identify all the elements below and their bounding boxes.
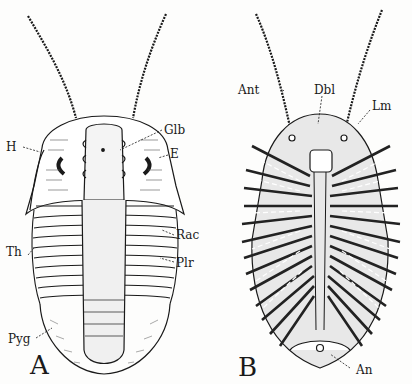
panel-letter-b: B xyxy=(238,354,257,380)
illustration xyxy=(0,0,412,384)
label-an: An xyxy=(356,364,372,376)
trilobite-figure: H Glb E Th Rac Plr Pyg A Ant Dbl Lm An B xyxy=(0,0,412,384)
label-th: Th xyxy=(6,246,22,258)
label-plr: Plr xyxy=(176,257,194,269)
label-glb: Glb xyxy=(164,124,185,136)
label-pyg: Pyg xyxy=(8,333,31,345)
label-ant: Ant xyxy=(238,84,259,96)
label-h: H xyxy=(6,141,16,153)
label-lm: Lm xyxy=(372,100,391,112)
trilobite-b-drawing xyxy=(242,10,400,368)
panel-letter-a: A xyxy=(30,352,49,378)
label-rac: Rac xyxy=(176,229,199,241)
trilobite-a-drawing xyxy=(23,14,184,374)
label-e: E xyxy=(170,148,179,160)
label-dbl: Dbl xyxy=(314,84,335,96)
